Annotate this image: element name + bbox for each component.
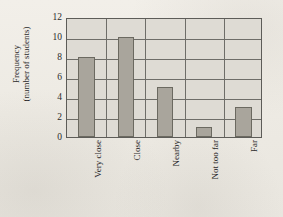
y-tick-label-6: 6 <box>40 73 62 83</box>
y-tick-label-12: 12 <box>40 13 62 23</box>
x-axis-category-labels: Very closeCloseNearbyNot too farFar <box>66 140 262 216</box>
category-separator-1 <box>106 19 107 137</box>
bar-very-close <box>78 57 94 137</box>
gridline-6 <box>67 79 261 80</box>
y-axis-title: Frequency (number of students) <box>3 4 39 124</box>
x-tick-label-nearby: Nearby <box>169 140 183 210</box>
y-axis-tick-labels: 024681012 <box>38 18 62 138</box>
category-separator-4 <box>224 19 225 137</box>
y-tick-label-10: 10 <box>40 33 62 43</box>
y-axis-title-line-1: Frequency <box>11 45 21 83</box>
bar-not-too-far <box>196 127 212 137</box>
x-tick-label-close: Close <box>130 140 144 210</box>
bar-far <box>235 107 251 137</box>
y-tick-label-8: 8 <box>40 53 62 63</box>
y-tick-label-0: 0 <box>40 133 62 143</box>
x-tick-label-very-close: Very close <box>91 140 105 210</box>
gridline-10 <box>67 39 261 40</box>
y-tick-label-2: 2 <box>40 113 62 123</box>
x-tick-label-not-too-far: Not too far <box>208 140 222 210</box>
plot-area <box>66 18 262 138</box>
bar-close <box>118 37 134 137</box>
category-separator-2 <box>145 19 146 137</box>
y-tick-label-4: 4 <box>40 93 62 103</box>
bar-nearby <box>157 87 173 137</box>
x-tick-label-far: Far <box>247 140 261 210</box>
gridline-8 <box>67 59 261 60</box>
bar-chart-figure: Frequency (number of students) 024681012… <box>0 0 283 217</box>
y-axis-title-line-2: (number of students) <box>21 27 31 102</box>
category-separator-3 <box>185 19 186 137</box>
